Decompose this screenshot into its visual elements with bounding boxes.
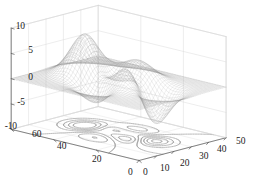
y-tick-label-3: 0 — [128, 168, 133, 178]
surface-plot-3d — [0, 0, 255, 185]
y-tick-label-1: 40 — [57, 142, 66, 152]
x-tick-label-1: 10 — [160, 164, 169, 174]
x-tick-label-5: 50 — [236, 137, 245, 147]
x-tick-label-0: 0 — [143, 168, 148, 178]
z-tick-label-3: -5 — [3, 98, 25, 108]
y-tick-label-0: 60 — [32, 130, 41, 140]
z-tick-label-1: 5 — [11, 46, 33, 56]
x-tick-label-2: 20 — [180, 159, 189, 169]
y-tick-label-2: 20 — [92, 155, 101, 165]
x-tick-label-3: 30 — [199, 152, 208, 162]
z-tick-label-0: 10 — [3, 22, 25, 32]
figure-canvas: 1050-5-10 6040200 01020304050 — [0, 0, 255, 185]
z-tick-label-4: -10 — [0, 122, 17, 132]
x-tick-label-4: 40 — [217, 145, 226, 155]
z-tick-label-2: 0 — [11, 73, 33, 83]
